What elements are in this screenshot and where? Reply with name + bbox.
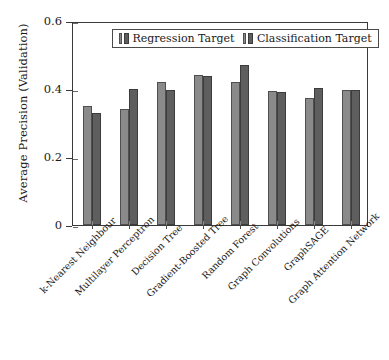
legend-swatch-classification: [124, 33, 129, 44]
y-tick-inner-mark: [73, 23, 78, 24]
y-tick-label: 0: [2, 220, 62, 232]
x-tick-mark: [203, 225, 204, 229]
bar-classification: [240, 65, 249, 225]
bar-classification: [92, 113, 101, 225]
legend-entry: Classification Target: [243, 30, 371, 47]
x-tick-inner-mark: [240, 221, 241, 225]
legend-swatch-regression: [243, 33, 246, 44]
bar-regression: [83, 106, 92, 225]
legend-swatch-pair: [243, 33, 253, 44]
plot-area: [72, 22, 368, 226]
y-axis-title: Average Precision (Validation): [12, 0, 34, 226]
legend-swatch-pair: [119, 33, 129, 44]
x-category-label: Graph Attention Network: [287, 232, 361, 306]
legend-swatch-regression: [119, 33, 122, 44]
bar-classification: [277, 92, 286, 225]
x-tick-inner-mark: [92, 221, 93, 225]
y-tick-inner-mark: [73, 91, 78, 92]
bar-regression: [342, 90, 351, 225]
bar-regression: [231, 82, 240, 225]
x-tick-mark: [166, 225, 167, 229]
y-tick-label: 0.2: [2, 152, 62, 164]
legend-label: Classification Target: [257, 33, 372, 44]
x-tick-mark: [277, 225, 278, 229]
x-tick-inner-mark: [277, 221, 278, 225]
x-tick-inner-mark: [129, 221, 130, 225]
x-tick-mark: [351, 225, 352, 229]
bar-classification: [166, 90, 175, 225]
x-tick-mark: [92, 225, 93, 229]
chart-figure: Average Precision (Validation) 00.20.40.…: [0, 0, 389, 360]
y-tick-inner-mark: [73, 227, 78, 228]
legend-entry: Regression Target: [119, 30, 234, 47]
bar-regression: [157, 82, 166, 225]
x-tick-mark: [314, 225, 315, 229]
bar-regression: [194, 75, 203, 225]
x-tick-mark: [129, 225, 130, 229]
chart-legend: Regression TargetClassification Target: [112, 29, 379, 48]
bar-classification: [351, 90, 360, 225]
y-tick-label: 0.4: [2, 84, 62, 96]
x-tick-mark: [240, 225, 241, 229]
x-tick-inner-mark: [166, 221, 167, 225]
x-tick-inner-mark: [203, 221, 204, 225]
x-category-label-text: Graph Convolutions: [226, 217, 301, 292]
bar-classification: [203, 76, 212, 225]
x-tick-inner-mark: [314, 221, 315, 225]
y-tick-mark: [66, 226, 72, 227]
legend-swatch-classification: [248, 33, 253, 44]
bar-regression: [305, 98, 314, 225]
y-tick-label: 0.6: [2, 16, 62, 28]
bar-classification: [314, 88, 323, 225]
y-tick-inner-mark: [73, 159, 78, 160]
bar-regression: [268, 91, 277, 225]
x-tick-inner-mark: [351, 221, 352, 225]
bar-regression: [120, 109, 129, 225]
legend-label: Regression Target: [133, 33, 235, 44]
bar-classification: [129, 89, 138, 225]
